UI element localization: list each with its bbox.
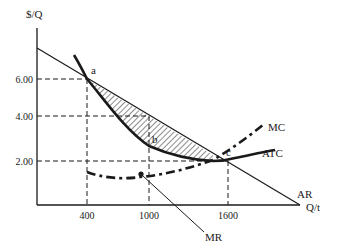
mr-marker-dot	[138, 171, 143, 176]
point-a-label: a	[91, 64, 96, 76]
x-tick-400: 400	[80, 210, 95, 221]
x-tick-1000: 1000	[139, 210, 159, 221]
atc-label: ATC	[262, 147, 283, 159]
ar-label: AR	[297, 188, 313, 200]
cost-revenue-diagram: $/Q Q/t 6.00 4.00 2.00 400 1000 1600 MC …	[0, 0, 341, 252]
y-tick-6: 6.00	[16, 74, 34, 85]
y-axis-label: $/Q	[26, 8, 43, 20]
mr-pointer-line	[143, 176, 204, 232]
x-axis-label: Q/t	[306, 201, 320, 213]
y-tick-2: 2.00	[16, 156, 34, 167]
guide-lines	[37, 79, 228, 205]
mc-label: MC	[268, 121, 285, 133]
x-tick-1600: 1600	[218, 210, 238, 221]
y-tick-4: 4.00	[16, 111, 34, 122]
mr-label: MR	[205, 231, 223, 243]
point-c-label: c	[226, 146, 231, 158]
hatched-area	[87, 79, 213, 161]
point-b-label: b	[152, 133, 158, 145]
